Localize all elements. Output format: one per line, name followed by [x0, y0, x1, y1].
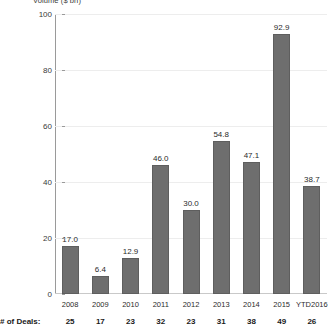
deal-count-value: 26: [288, 317, 334, 326]
plot-area: 17.06.412.946.030.054.847.192.938.7: [55, 14, 327, 294]
bar[interactable]: [92, 276, 109, 294]
bar-value-label: 47.1: [231, 151, 271, 160]
y-tick-mark: [62, 182, 65, 183]
bar-value-label: 46.0: [141, 154, 181, 163]
bar-value-label: 92.9: [262, 23, 302, 32]
y-tick-label: 100: [14, 10, 52, 19]
y-tick-label: 40: [14, 178, 52, 187]
bar-value-label: 12.9: [111, 247, 151, 256]
bar[interactable]: [152, 165, 169, 294]
bar[interactable]: [273, 34, 290, 294]
bar-chart: Volume ($ bn) 17.06.412.946.030.054.847.…: [0, 0, 334, 335]
y-tick-label: 60: [14, 122, 52, 131]
y-tick-mark: [62, 14, 65, 15]
x-category-label: YTD2016: [288, 300, 334, 309]
bar[interactable]: [213, 141, 230, 294]
bar[interactable]: [303, 186, 320, 294]
bar-value-label: 17.0: [50, 235, 90, 244]
y-tick-label: 0: [14, 290, 52, 299]
bar[interactable]: [183, 210, 200, 294]
bar-value-label: 30.0: [171, 199, 211, 208]
bar-value-label: 6.4: [80, 265, 120, 274]
y-tick-mark: [62, 126, 65, 127]
deals-row-label: # of Deals:: [0, 317, 40, 326]
y-axis-title: Volume ($ bn): [33, 0, 81, 5]
y-tick-mark: [62, 70, 65, 71]
y-tick-label: 80: [14, 66, 52, 75]
y-tick-label: 20: [14, 234, 52, 243]
y-tick-mark: [62, 294, 65, 295]
bar-value-label: 54.8: [201, 130, 241, 139]
gridline: [55, 14, 327, 15]
y-tick-mark: [62, 238, 65, 239]
bar-value-label: 38.7: [292, 175, 332, 184]
bar[interactable]: [62, 246, 79, 294]
bar[interactable]: [122, 258, 139, 294]
bar[interactable]: [243, 162, 260, 294]
y-axis-ticks: 020406080100: [10, 14, 52, 294]
